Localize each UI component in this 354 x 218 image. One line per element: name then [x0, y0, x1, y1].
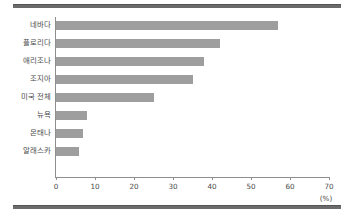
- bar-row: 네바다: [0, 17, 354, 35]
- category-label: 애리조나: [0, 56, 51, 65]
- plot-area: 네바다플로리다애리조나조지아미국 전체뉴욕몬태나알래스카 01020304050…: [0, 14, 354, 189]
- bar: [56, 57, 204, 66]
- bar: [56, 147, 79, 156]
- category-label: 알래스카: [0, 146, 51, 155]
- bar: [56, 39, 220, 48]
- x-tick-mark: [173, 177, 174, 180]
- bar-row: 미국 전체: [0, 89, 354, 107]
- bar-row: 플로리다: [0, 35, 354, 53]
- bar: [56, 93, 154, 102]
- category-label: 미국 전체: [0, 92, 51, 101]
- bar-row: 몬태나: [0, 125, 354, 143]
- bar-row: 애리조나: [0, 53, 354, 71]
- x-tick-mark: [95, 177, 96, 180]
- x-tick-mark: [251, 177, 252, 180]
- x-tick-label: 0: [44, 182, 68, 191]
- x-tick-label: 10: [83, 182, 107, 191]
- x-tick-mark: [134, 177, 135, 180]
- category-label: 네바다: [0, 20, 51, 29]
- bar-row: 뉴욕: [0, 107, 354, 125]
- bottom-rule: [13, 205, 341, 209]
- x-tick-label: 60: [278, 182, 302, 191]
- bar: [56, 21, 278, 30]
- bar: [56, 111, 87, 120]
- x-tick-mark: [56, 177, 57, 180]
- category-label: 플로리다: [0, 38, 51, 47]
- category-label: 몬태나: [0, 128, 51, 137]
- bar-row: 조지아: [0, 71, 354, 89]
- x-axis-unit-label: (%): [311, 194, 341, 203]
- x-tick-label: 50: [239, 182, 263, 191]
- x-tick-label: 20: [122, 182, 146, 191]
- x-axis-line: [55, 177, 329, 178]
- category-label: 조지아: [0, 74, 51, 83]
- x-tick-label: 70: [317, 182, 341, 191]
- bar: [56, 75, 193, 84]
- category-label: 뉴욕: [0, 110, 51, 119]
- x-tick-label: 30: [161, 182, 185, 191]
- top-rule: [13, 4, 341, 8]
- x-tick-mark: [329, 177, 330, 180]
- x-tick-label: 40: [200, 182, 224, 191]
- bar-row: 알래스카: [0, 143, 354, 161]
- x-tick-mark: [290, 177, 291, 180]
- bar: [56, 129, 83, 138]
- chart-figure: 네바다플로리다애리조나조지아미국 전체뉴욕몬태나알래스카 01020304050…: [0, 0, 354, 218]
- x-tick-mark: [212, 177, 213, 180]
